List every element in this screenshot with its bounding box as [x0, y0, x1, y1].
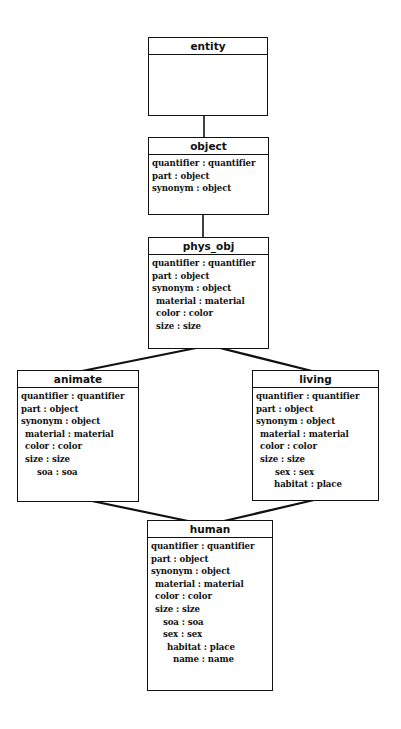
attribute: color : color — [152, 307, 268, 320]
node-title: living — [253, 371, 378, 388]
node-attributes — [149, 55, 267, 59]
node-attributes: quantifier : quantifier part : object sy… — [149, 155, 268, 197]
node-animate: animate quantifier : quantifier part : o… — [17, 370, 139, 502]
node-entity: entity — [148, 37, 268, 116]
attribute: part : object — [21, 403, 138, 416]
attribute: synonym : object — [21, 415, 138, 428]
node-title: entity — [149, 38, 267, 55]
attribute: quantifier : quantifier — [152, 157, 268, 170]
attribute: quantifier : quantifier — [21, 390, 138, 403]
node-attributes: quantifier : quantifier part : object sy… — [148, 538, 272, 668]
node-living: living quantifier : quantifier part : ob… — [252, 370, 379, 501]
attribute: material : material — [21, 428, 138, 441]
node-human: human quantifier : quantifier part : obj… — [147, 520, 273, 691]
attribute: soa : soa — [151, 616, 272, 629]
attribute: size : size — [21, 453, 138, 466]
attribute: quantifier : quantifier — [151, 540, 272, 553]
node-title: animate — [18, 371, 138, 388]
attribute: synonym : object — [152, 282, 268, 295]
edge-animate-human — [92, 501, 188, 521]
attribute: color : color — [21, 440, 138, 453]
attribute: color : color — [151, 590, 272, 603]
attribute: quantifier : quantifier — [256, 390, 378, 403]
attribute: synonym : object — [151, 565, 272, 578]
edge-phys-obj-animate — [82, 348, 196, 371]
attribute: soa : soa — [21, 466, 138, 479]
node-title: human — [148, 521, 272, 538]
node-object: object quantifier : quantifier part : ob… — [148, 137, 269, 215]
node-title: object — [149, 138, 268, 155]
attribute: synonym : object — [256, 415, 378, 428]
node-title: phys_obj — [149, 238, 268, 255]
attribute: material : material — [152, 295, 268, 308]
edge-phys-obj-living — [220, 348, 312, 371]
attribute: synonym : object — [152, 182, 268, 195]
node-attributes: quantifier : quantifier part : object sy… — [149, 255, 268, 335]
attribute: sex : sex — [151, 628, 272, 641]
attribute: name : name — [151, 653, 272, 666]
attribute: part : object — [152, 170, 268, 183]
attribute: quantifier : quantifier — [152, 257, 268, 270]
node-phys-obj: phys_obj quantifier : quantifier part : … — [148, 237, 269, 349]
attribute: sex : sex — [256, 466, 378, 479]
attribute: size : size — [152, 320, 268, 333]
attribute: habitat : place — [151, 641, 272, 654]
edge-living-human — [224, 500, 314, 521]
attribute: size : size — [256, 453, 378, 466]
node-attributes: quantifier : quantifier part : object sy… — [253, 388, 378, 493]
attribute: color : color — [256, 440, 378, 453]
attribute: part : object — [151, 553, 272, 566]
attribute: part : object — [256, 403, 378, 416]
attribute: material : material — [256, 428, 378, 441]
node-attributes: quantifier : quantifier part : object sy… — [18, 388, 138, 480]
attribute: part : object — [152, 270, 268, 283]
attribute: habitat : place — [256, 478, 378, 491]
attribute: size : size — [151, 603, 272, 616]
attribute: material : material — [151, 578, 272, 591]
